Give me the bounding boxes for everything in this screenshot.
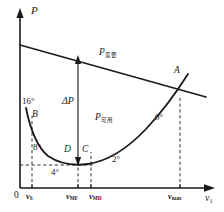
delta-p-label: ΔP [62, 96, 74, 106]
tick-label-origin: 0 [14, 191, 19, 201]
x-axis-title-sub: 1 [209, 197, 212, 204]
x-axis-title: v1 [205, 193, 213, 204]
y-axis-title: P [31, 5, 38, 16]
point-d-label: D [64, 145, 71, 155]
angle-2-label: 2° [112, 155, 120, 164]
plot-canvas [0, 0, 224, 212]
curve-label-required-power: P可用 [95, 113, 113, 123]
point-a-label: A [174, 66, 180, 76]
angle-0-label: 0° [155, 113, 163, 122]
curve-label-available-power-sub: 需要 [105, 52, 117, 58]
power-curves-figure: P v1 0 vS vMF vMD vmax P需要 P可用 ΔP 16° 8°… [0, 0, 224, 212]
tick-label-min-fuel-speed-sub: MF [70, 195, 78, 201]
curve-label-available-power: P需要 [99, 48, 117, 58]
tick-label-max-speed-sub: max [172, 195, 182, 201]
angle-16-label: 16° [22, 97, 35, 106]
tick-label-min-drag-speed: vMD [89, 192, 102, 202]
guide-lines [20, 95, 180, 188]
delta-p-arrow [75, 55, 81, 166]
axis-lines [16, 8, 215, 192]
y-axis-arrowhead [16, 8, 23, 18]
tick-label-stall-speed-sub: S [30, 195, 33, 201]
curve-label-required-power-sub: 可用 [101, 117, 113, 123]
tick-label-min-drag-speed-sub: MD [93, 195, 102, 201]
delta-p-arrowhead-up [75, 55, 81, 64]
point-b-label: B [32, 110, 38, 120]
angle-8-label: 8° [33, 143, 41, 152]
tick-label-max-speed: vmax [168, 192, 181, 202]
angle-4-label: 4° [51, 168, 59, 177]
x-axis-arrowhead [204, 184, 215, 192]
tick-label-min-fuel-speed: vMF [66, 192, 78, 202]
point-c-label: C [82, 145, 88, 155]
tick-label-stall-speed: vS [26, 192, 33, 202]
